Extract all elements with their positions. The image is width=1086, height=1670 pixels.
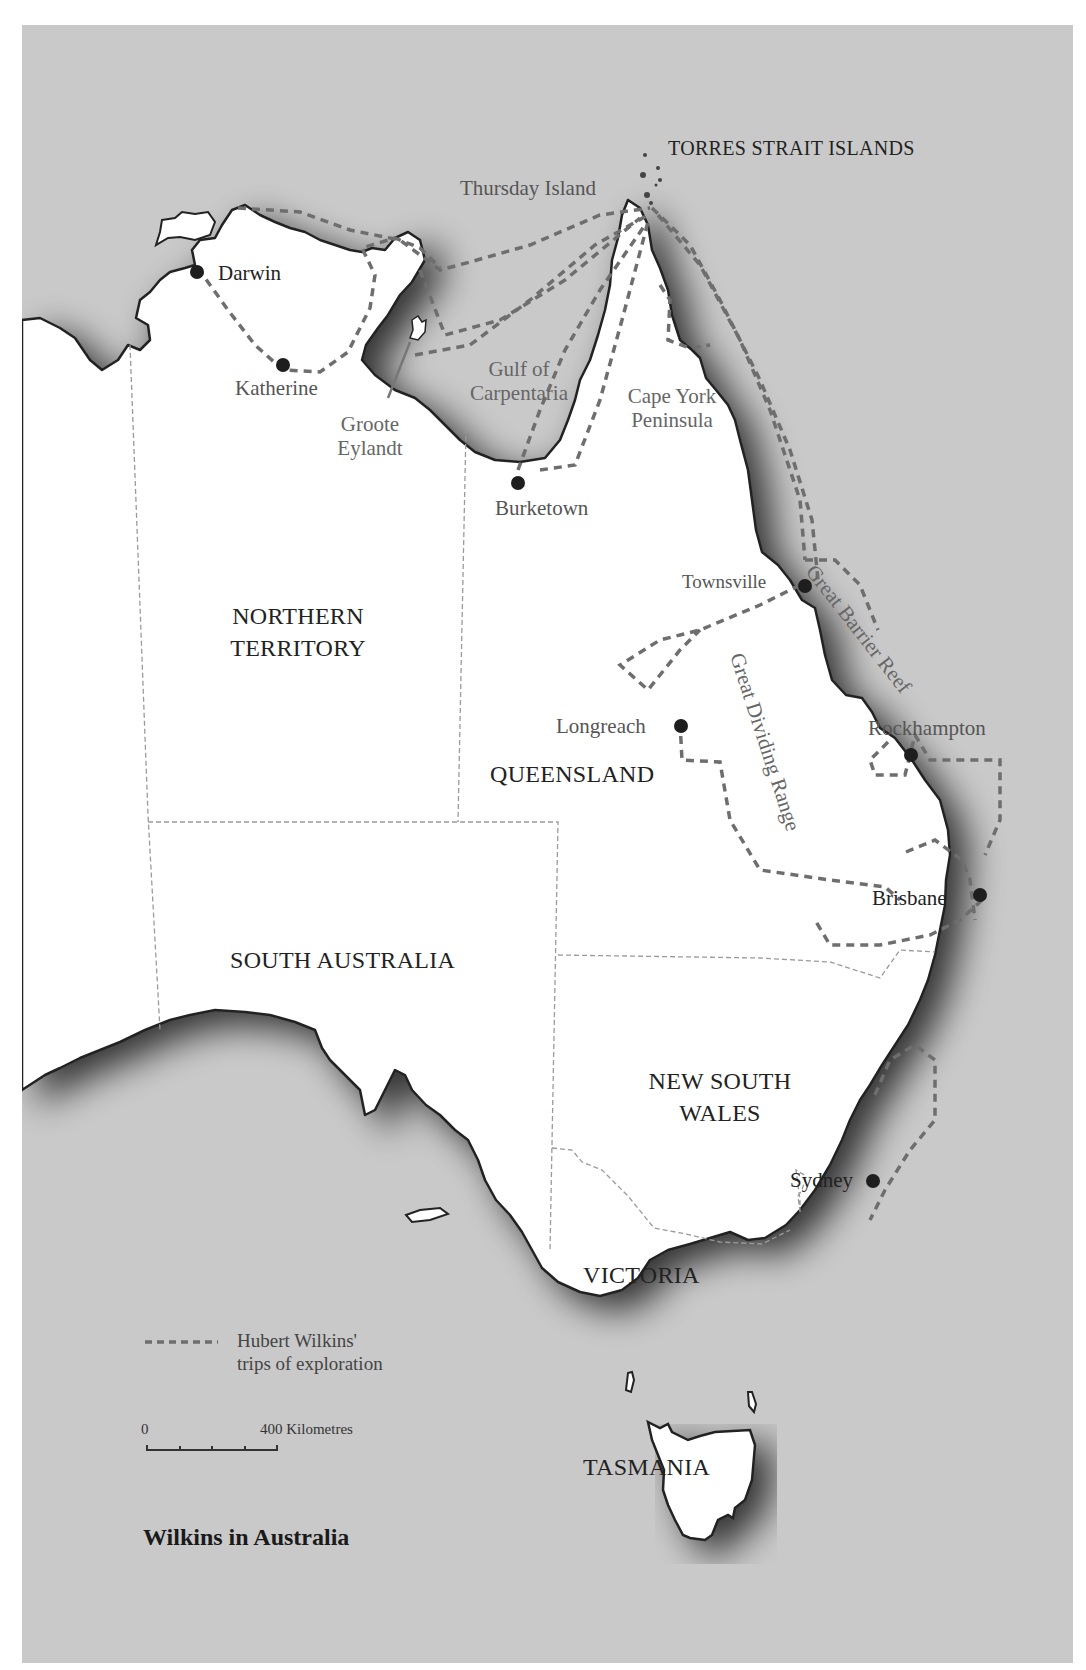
label-katherine: Katherine bbox=[235, 378, 318, 399]
groote-line2: Eylandt bbox=[320, 436, 420, 460]
label-brisbane: Brisbane bbox=[872, 888, 947, 909]
groote-pointer-line bbox=[388, 342, 410, 398]
nt-line1: NORTHERN bbox=[213, 600, 383, 632]
label-queensland: QUEENSLAND bbox=[490, 762, 654, 786]
rockhampton-dot bbox=[904, 748, 918, 762]
kangaroo-island bbox=[406, 1208, 448, 1222]
groote-line1: Groote bbox=[320, 412, 420, 436]
label-new-south-wales: NEW SOUTH WALES bbox=[640, 1065, 800, 1130]
darwin-dot bbox=[190, 265, 204, 279]
bass-strait-island-west bbox=[626, 1372, 634, 1392]
label-darwin: Darwin bbox=[218, 263, 281, 284]
torres-strait-islets bbox=[640, 153, 662, 205]
map-title: Wilkins in Australia bbox=[143, 1525, 349, 1549]
nsw-line1: NEW SOUTH bbox=[640, 1065, 800, 1097]
label-torres-strait-islands: TORRES STRAIT ISLANDS bbox=[668, 138, 915, 158]
label-groote-eylandt: Groote Eylandt bbox=[320, 412, 420, 460]
scale-start-label: 0 bbox=[141, 1422, 149, 1437]
label-rockhampton: Rockhampton bbox=[868, 718, 986, 739]
label-cape-york-peninsula: Cape York Peninsula bbox=[612, 384, 732, 432]
legend-line1: Hubert Wilkins' bbox=[237, 1330, 383, 1353]
label-northern-territory: NORTHERN TERRITORY bbox=[213, 600, 383, 665]
capeyork-line1: Cape York bbox=[612, 384, 732, 408]
gulf-line2: Carpentaria bbox=[444, 381, 594, 405]
legend-line2: trips of exploration bbox=[237, 1353, 383, 1376]
sydney-dot bbox=[866, 1174, 880, 1188]
label-south-australia: SOUTH AUSTRALIA bbox=[230, 948, 455, 972]
nsw-line2: WALES bbox=[640, 1097, 800, 1129]
nt-line2: TERRITORY bbox=[213, 632, 383, 664]
scale-end-label: 400 Kilometres bbox=[260, 1422, 353, 1437]
katherine-dot bbox=[276, 358, 290, 372]
gulf-line1: Gulf of bbox=[444, 357, 594, 381]
longreach-dot bbox=[674, 719, 688, 733]
label-thursday-island: Thursday Island bbox=[460, 178, 596, 199]
bass-strait-island-east bbox=[748, 1392, 756, 1412]
capeyork-line2: Peninsula bbox=[612, 408, 732, 432]
label-gulf-of-carpentaria: Gulf of Carpentaria bbox=[444, 357, 594, 405]
groote-eylandt-island bbox=[410, 316, 426, 340]
label-burketown: Burketown bbox=[495, 498, 588, 519]
label-townsville: Townsville bbox=[682, 572, 766, 591]
brisbane-dot bbox=[973, 888, 987, 902]
label-longreach: Longreach bbox=[556, 716, 646, 737]
map-canvas bbox=[0, 0, 1086, 1670]
label-tasmania: TASMANIA bbox=[583, 1455, 710, 1479]
burketown-dot bbox=[511, 476, 525, 490]
scale-bar bbox=[147, 1445, 277, 1450]
tasmania-island bbox=[648, 1422, 755, 1540]
label-sydney: Sydney bbox=[790, 1170, 853, 1191]
legend-route-label: Hubert Wilkins' trips of exploration bbox=[237, 1330, 383, 1376]
label-victoria: VICTORIA bbox=[583, 1263, 700, 1287]
